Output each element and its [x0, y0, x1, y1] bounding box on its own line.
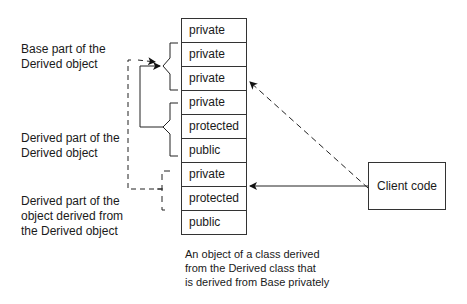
caption-line: is derived from Base privately — [185, 275, 329, 289]
diagram-caption: An object of a class derived from the De… — [185, 247, 329, 289]
brace-derived-derived-part — [157, 171, 170, 210]
brace-base-part — [163, 43, 178, 90]
caption-line: An object of a class derived — [185, 247, 329, 261]
caption-line: from the Derived class that — [185, 261, 329, 275]
arrow-client-to-private — [250, 82, 368, 188]
dashed-inheritance-connector — [128, 60, 163, 189]
brace-derived-part — [163, 103, 178, 156]
solid-inheritance-connector — [140, 66, 163, 127]
